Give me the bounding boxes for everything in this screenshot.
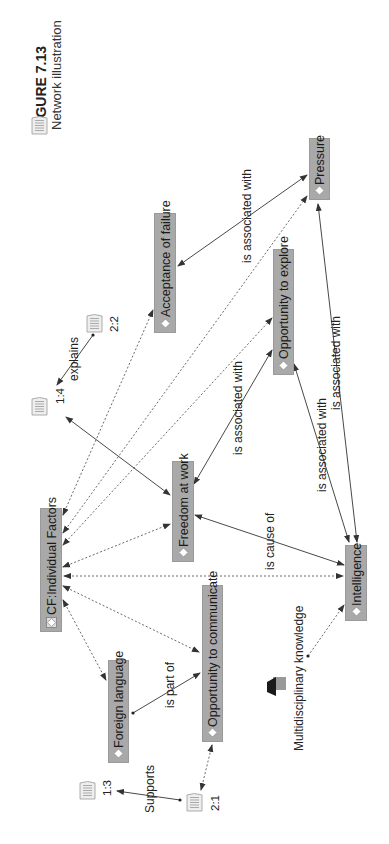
node-label: Pressure	[313, 135, 327, 185]
node-foreign-language[interactable]: Foreign language	[108, 660, 129, 763]
edge-label-supports: Supports	[144, 765, 157, 813]
quotation-label: 1:3	[101, 780, 113, 796]
code-diamond-icon	[279, 361, 288, 370]
edge-communicate-q21	[201, 745, 212, 790]
node-label: Foreign language	[112, 651, 126, 748]
node-label: Freedom at work	[177, 453, 191, 547]
node-opportunity-to-communicate[interactable]: Opportunity to communicate	[202, 585, 223, 742]
edge-cf-communicate	[63, 586, 199, 652]
edge-label-freedom-intelligence: is cause of	[264, 513, 277, 570]
node-opportunity-to-explore[interactable]: Opportunity to explore	[273, 249, 294, 375]
node-label: Acceptance of failure	[159, 200, 173, 317]
quotation-document-icon[interactable]	[31, 115, 48, 135]
edge-label-explains: explains	[68, 337, 81, 381]
figure-title: Network illustration	[49, 20, 64, 130]
node-label: Opportunity to communicate	[206, 571, 220, 727]
edge-cf-foreign	[63, 600, 106, 680]
quotation-label: 2:1	[209, 795, 221, 811]
node-label: Opportunity to explore	[277, 236, 291, 359]
edge-label-acceptance-pressure: is associated with	[241, 169, 254, 263]
edge-label-pressure-intelligence: is associated with	[330, 316, 343, 410]
network-diagram: FIGURE 7.13 Network illustration Pressur…	[0, 0, 389, 844]
node-cf-individual-factors[interactable]: CF:Individual Factors	[40, 508, 62, 632]
code-diamond-icon	[114, 749, 123, 758]
code-diamond-icon	[208, 728, 217, 737]
code-diamond-icon	[179, 548, 188, 557]
code-diamond-icon	[161, 319, 170, 328]
code-diamond-icon	[352, 607, 361, 616]
quotation-document-icon[interactable]	[186, 792, 203, 812]
quotation-document-icon[interactable]	[86, 313, 103, 333]
node-pressure[interactable]: Pressure	[309, 138, 330, 200]
quotation-document-icon[interactable]	[79, 780, 96, 800]
node-freedom-at-work[interactable]: Freedom at work	[172, 461, 194, 562]
node-intelligence[interactable]: Intelligence	[345, 545, 367, 621]
code-diamond-icon	[315, 186, 324, 195]
quotation-label: 1:4	[54, 388, 66, 404]
edge-q14-freedom	[66, 417, 170, 495]
node-label: Intelligence	[350, 543, 364, 606]
memo-label: Multidisciplinary knowledge	[293, 606, 306, 751]
edge-cf-freedom	[63, 524, 170, 567]
edge-label-foreign-communicate: is part of	[164, 662, 177, 708]
edge-memo-intelligence	[308, 605, 344, 656]
quotation-document-icon[interactable]	[31, 396, 48, 416]
node-acceptance-of-failure[interactable]: Acceptance of failure	[154, 213, 176, 333]
edge-label-explore-intelligence: is associated with	[316, 398, 329, 492]
node-label: CF:Individual Factors	[45, 497, 59, 615]
quotation-label: 2:2	[108, 316, 120, 332]
edge-label-freedom-explore: is associated with	[232, 361, 245, 455]
memo-icon[interactable]	[266, 676, 287, 697]
code-family-icon	[46, 617, 57, 628]
